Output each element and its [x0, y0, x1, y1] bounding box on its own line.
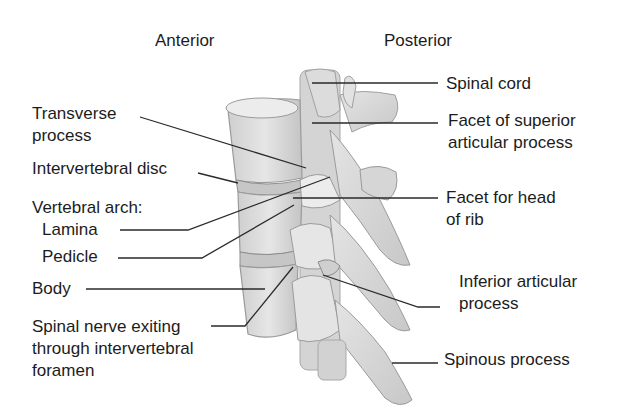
label-line: Transverse: [32, 103, 116, 125]
label-line: articular process: [448, 132, 576, 154]
label-spinal-cord: Spinal cord: [446, 73, 531, 95]
label-line: foramen: [32, 360, 194, 382]
vertebral-body-lower: [240, 264, 298, 337]
label-transverse-process: Transverse process: [32, 103, 116, 147]
label-line: through intervertebral: [32, 338, 194, 360]
label-vertebral-arch: Vertebral arch:: [32, 197, 143, 219]
lower-vertebra-posterior: [292, 275, 412, 404]
label-line: Facet of superior: [448, 110, 576, 132]
label-facet-superior-articular: Facet of superior articular process: [448, 110, 576, 154]
label-spinal-nerve: Spinal nerve exiting through interverteb…: [32, 316, 194, 382]
label-line: of rib: [446, 209, 556, 231]
label-body: Body: [32, 278, 71, 300]
label-inferior-articular-process: Inferior articular process: [459, 271, 577, 315]
vertebral-body-upper: [226, 98, 302, 183]
label-line: process: [459, 293, 577, 315]
label-spinous-process: Spinous process: [444, 349, 570, 371]
label-line: Spinal nerve exiting: [32, 316, 194, 338]
label-pedicle: Pedicle: [42, 246, 98, 268]
label-line: Facet for head: [446, 187, 556, 209]
label-line: process: [32, 125, 116, 147]
label-intervertebral-disc: Intervertebral disc: [32, 158, 167, 180]
label-lamina: Lamina: [42, 219, 98, 241]
label-line: Inferior articular: [459, 271, 577, 293]
label-facet-head-of-rib: Facet for head of rib: [446, 187, 556, 231]
anterior-heading: Anterior: [155, 30, 215, 52]
posterior-heading: Posterior: [384, 30, 452, 52]
